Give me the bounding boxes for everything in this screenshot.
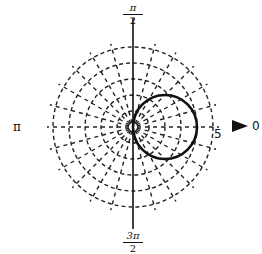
grid-spoke bbox=[59, 84, 130, 125]
label-pi: π bbox=[13, 121, 21, 133]
label-top-denominator: 2 bbox=[123, 15, 143, 26]
label-3pi-over-2: 3π 2 bbox=[123, 231, 143, 254]
label-top-numerator: π bbox=[123, 3, 143, 15]
label-bottom-numerator: 3π bbox=[123, 231, 143, 243]
grid-spoke bbox=[90, 53, 131, 124]
radial-tick-label-5: 5 bbox=[214, 128, 222, 140]
polar-axis-arrow-icon bbox=[232, 120, 248, 132]
label-pi-over-2: π 2 bbox=[123, 3, 143, 26]
grid-spoke bbox=[137, 128, 216, 149]
grid-spoke bbox=[72, 66, 130, 124]
label-zero: 0 bbox=[252, 120, 260, 132]
label-bottom-denominator: 2 bbox=[123, 243, 143, 254]
